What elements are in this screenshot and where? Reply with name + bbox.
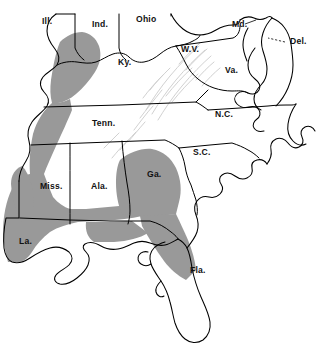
map-figure: Ill. Ind. Ohio Md. Del. W.V. Va. Ky. Ten… <box>0 0 320 363</box>
state-label-alabama: Ala. <box>91 181 108 191</box>
state-label-mississippi: Miss. <box>40 181 63 191</box>
state-label-georgia: Ga. <box>147 169 161 179</box>
state-label-tennessee: Tenn. <box>92 118 115 128</box>
map-canvas: Ill. Ind. Ohio Md. Del. W.V. Va. Ky. Ten… <box>0 0 320 363</box>
state-label-delaware: Del. <box>290 36 307 46</box>
state-label-south-carolina: S.C. <box>193 147 211 157</box>
state-label-louisiana: La. <box>19 236 32 246</box>
state-label-indiana: Ind. <box>92 19 108 29</box>
label-leader-lines <box>245 20 285 42</box>
state-label-maryland: Md. <box>232 19 247 29</box>
state-label-florida: Fla. <box>190 265 206 275</box>
state-label-north-carolina: N.C. <box>215 109 233 119</box>
state-label-west-virginia: W.V. <box>181 44 199 54</box>
state-label-kentucky: Ky. <box>118 57 131 67</box>
state-label-ohio: Ohio <box>136 14 156 24</box>
state-label-virginia: Va. <box>225 65 238 75</box>
state-label-illinois: Ill. <box>42 16 52 26</box>
